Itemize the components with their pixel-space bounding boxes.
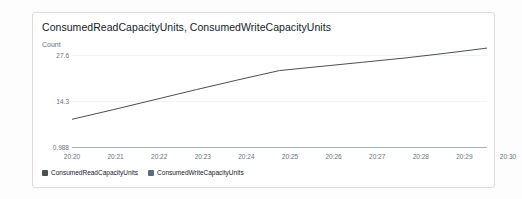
metric-widget-card: ConsumedReadCapacityUnits, ConsumedWrite… <box>32 12 495 188</box>
screenshot-root: ConsumedReadCapacityUnits, ConsumedWrite… <box>0 0 522 199</box>
x-axis-ticks: 20:2020:2120:2220:2320:2420:2520:2620:27… <box>72 153 508 165</box>
x-axis-tick-label: 20:26 <box>325 153 341 160</box>
x-axis-tick-label: 20:25 <box>282 153 298 160</box>
x-axis-tick-label: 20:21 <box>107 153 123 160</box>
plot-area: 27.614.30.988 <box>42 51 487 151</box>
x-axis-tick-label: 20:28 <box>413 153 429 160</box>
legend-swatch-icon <box>42 170 48 176</box>
legend-item[interactable]: ConsumedReadCapacityUnits <box>42 169 138 176</box>
legend-item-label: ConsumedReadCapacityUnits <box>51 169 138 176</box>
legend-item-label: ConsumedWriteCapacityUnits <box>157 169 244 176</box>
chart-legend: ConsumedReadCapacityUnitsConsumedWriteCa… <box>42 169 244 176</box>
x-axis-tick-label: 20:24 <box>238 153 254 160</box>
x-axis-tick-label: 20:23 <box>195 153 211 160</box>
y-axis-tick-label: 14.3 <box>42 97 69 104</box>
y-axis-title: Count <box>42 41 61 48</box>
x-axis-tick-label: 20:29 <box>456 153 472 160</box>
line-chart-svg <box>72 51 487 151</box>
series-line-consumedreadcapacityunits <box>72 48 487 119</box>
legend-item[interactable]: ConsumedWriteCapacityUnits <box>148 169 244 176</box>
y-axis-tick-label: 0.988 <box>42 144 69 151</box>
x-axis-tick-label: 20:30 <box>500 153 516 160</box>
widget-title: ConsumedReadCapacityUnits, ConsumedWrite… <box>42 21 331 33</box>
legend-swatch-icon <box>148 170 154 176</box>
y-axis-tick-label: 27.6 <box>42 52 69 59</box>
x-axis-tick-label: 20:27 <box>369 153 385 160</box>
x-axis-tick-label: 20:22 <box>151 153 167 160</box>
x-axis-tick-label: 20:20 <box>64 153 80 160</box>
